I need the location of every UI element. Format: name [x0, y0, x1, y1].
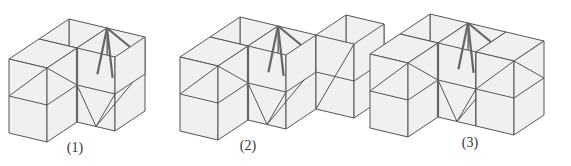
figure-1-cubes [9, 19, 145, 142]
figure-2-label: (2) [240, 138, 256, 154]
figure-1-label: (1) [67, 140, 83, 156]
figure-3-label: (3) [462, 135, 478, 151]
cube-diagram [0, 0, 571, 166]
figure-3-cubes [370, 14, 544, 137]
figure-2-cubes [180, 15, 384, 140]
